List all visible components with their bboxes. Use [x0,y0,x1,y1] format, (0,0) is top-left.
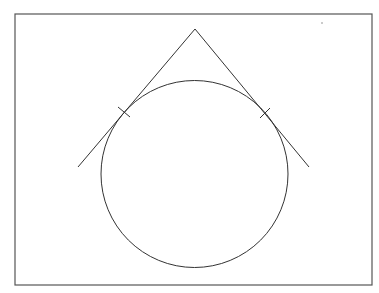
diagram-frame [15,14,372,285]
tangent-line-right [195,29,309,167]
stray-dot [321,22,323,24]
geometry-diagram [0,0,379,293]
tangent-line-left [78,29,195,167]
circle [101,81,288,268]
